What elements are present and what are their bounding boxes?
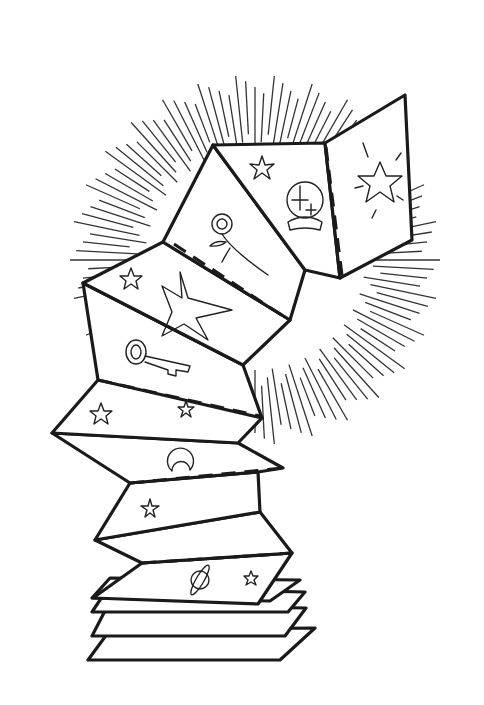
accordion-paper-illustration (0, 0, 484, 705)
illustration-canvas: Folded accordion paper with mystical sym… (0, 0, 484, 705)
accordion-panels (52, 95, 412, 604)
